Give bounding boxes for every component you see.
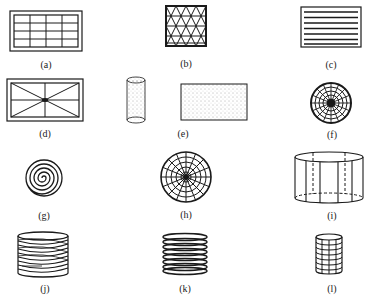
panel-b-triangle-lattice xyxy=(166,6,206,46)
panel-k-stacked-rings xyxy=(163,234,207,275)
panel-g-spiral xyxy=(26,160,62,196)
label-d: (d) xyxy=(30,128,60,139)
panel-i-cylinder xyxy=(295,152,363,203)
label-c: (c) xyxy=(316,59,346,70)
label-i: (i) xyxy=(317,210,347,221)
label-a: (a) xyxy=(31,59,61,70)
label-j: (j) xyxy=(30,283,60,294)
label-l: (l) xyxy=(317,283,347,294)
panel-a-grid-rectangle xyxy=(10,11,82,51)
label-g: (g) xyxy=(29,210,59,221)
label-h: (h) xyxy=(171,209,201,220)
panel-d-diagonal-rectangle xyxy=(7,79,83,121)
panel-h-radial-circle xyxy=(161,152,211,202)
panel-c-horizontal-lines xyxy=(301,7,361,47)
label-k: (k) xyxy=(170,283,200,294)
panel-f-radial-rings xyxy=(311,83,351,123)
diagram-canvas xyxy=(0,0,369,304)
panel-l-gridded-cylinder xyxy=(316,234,342,274)
label-f: (f) xyxy=(317,129,347,140)
panel-j-helical-coil xyxy=(18,232,68,277)
label-e: (e) xyxy=(168,128,198,139)
panel-e-dotted-shapes xyxy=(127,77,247,123)
label-b: (b) xyxy=(171,58,201,69)
